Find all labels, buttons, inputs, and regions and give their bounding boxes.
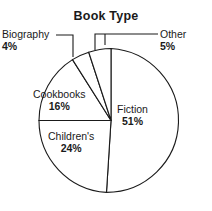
slice-label-other-name: Other — [160, 29, 186, 41]
slice-label-fiction-value: 51% — [117, 116, 148, 128]
pie-chart-figure: Book Type Biography 4% Other 5% Cookbook… — [0, 0, 212, 211]
slice-label-fiction-name: Fiction — [117, 104, 148, 116]
slice-label-biography-name: Biography — [2, 29, 49, 41]
slice-label-biography-value: 4% — [2, 41, 49, 53]
slice-label-fiction: Fiction 51% — [117, 104, 148, 127]
slice-label-cookbooks-value: 16% — [33, 101, 86, 113]
slice-label-cookbooks: Cookbooks 16% — [33, 89, 86, 112]
slice-label-biography: Biography 4% — [2, 29, 49, 52]
slice-label-other: Other 5% — [160, 29, 186, 52]
slice-label-childrens-name: Children's — [48, 131, 94, 143]
leader-line-biography — [56, 35, 73, 57]
slice-label-cookbooks-name: Cookbooks — [33, 89, 86, 101]
slice-label-childrens-value: 24% — [48, 143, 94, 155]
slice-label-childrens: Children's 24% — [48, 131, 94, 154]
slice-label-other-value: 5% — [160, 41, 186, 53]
